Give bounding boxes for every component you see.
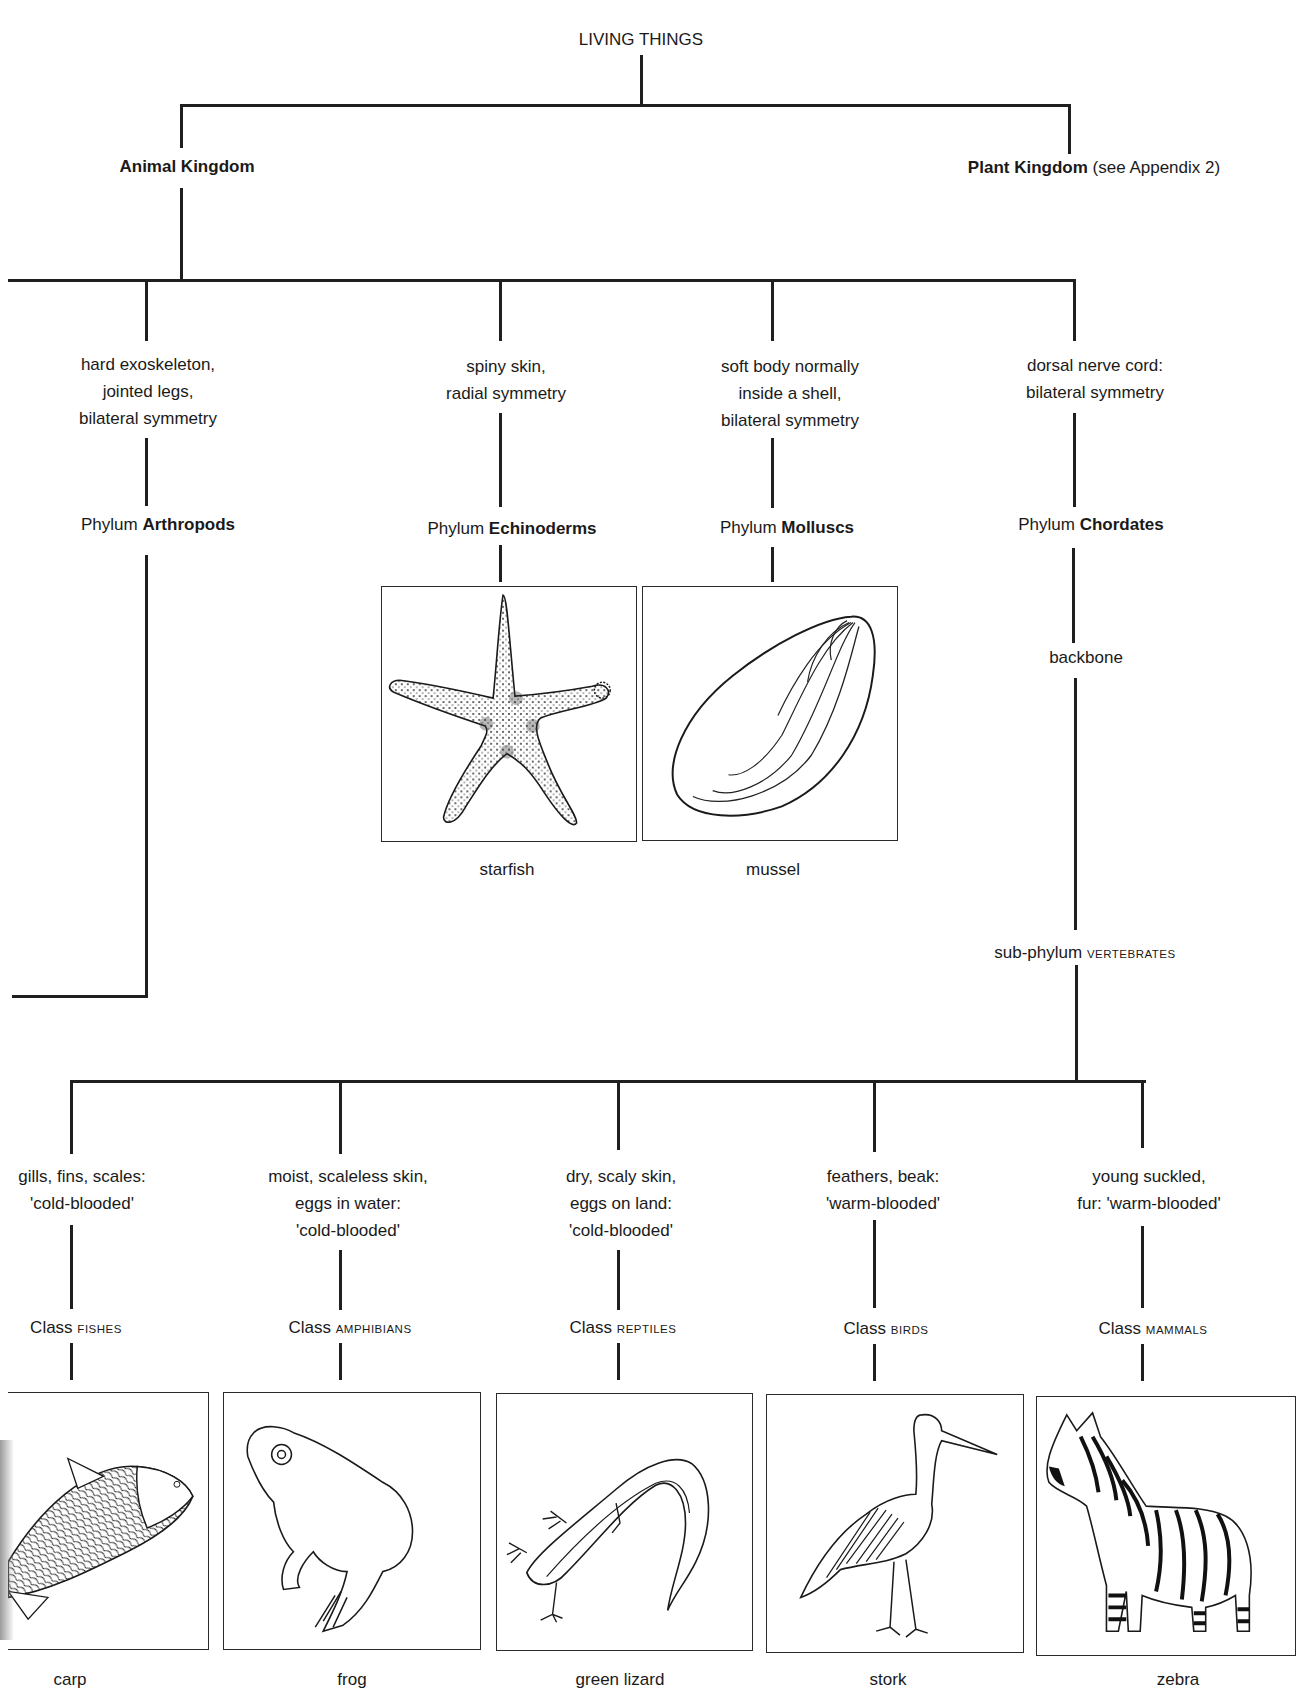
class-reptiles-features: dry, scaly skin, eggs on land: 'cold-blo… bbox=[566, 1163, 676, 1244]
class-reptiles: Class reptiles bbox=[570, 1314, 677, 1343]
starfish-illustration bbox=[382, 587, 636, 841]
phylum-echinoderms: Phylum Echinoderms bbox=[427, 515, 596, 542]
example-stork: stork bbox=[870, 1670, 907, 1690]
kingdom-plant-note: (see Appendix 2) bbox=[1093, 158, 1221, 177]
phylum-chordates: Phylum Chordates bbox=[1018, 511, 1164, 538]
class-amphibians: Class amphibians bbox=[288, 1314, 411, 1343]
starfish-image-box bbox=[381, 586, 637, 842]
phylum-chordates-features: dorsal nerve cord: bilateral symmetry bbox=[1026, 352, 1164, 406]
phylum-echinoderms-features: spiny skin, radial symmetry bbox=[446, 353, 566, 407]
example-starfish: starfish bbox=[480, 860, 535, 880]
class-birds-features: feathers, beak: 'warm-blooded' bbox=[826, 1163, 940, 1217]
chordate-feature-backbone: backbone bbox=[1049, 644, 1123, 671]
example-carp: carp bbox=[53, 1670, 86, 1690]
example-green-lizard: green lizard bbox=[576, 1670, 665, 1690]
stork-image-box bbox=[766, 1394, 1024, 1653]
carp-image-box bbox=[8, 1392, 209, 1650]
kingdom-plant-name: Plant Kingdom bbox=[968, 158, 1088, 177]
lizard-image-box bbox=[496, 1393, 753, 1651]
frog-illustration bbox=[224, 1393, 480, 1649]
kingdom-animal-name: Animal Kingdom bbox=[119, 157, 254, 176]
class-birds: Class birds bbox=[844, 1315, 929, 1344]
lizard-illustration bbox=[497, 1394, 752, 1650]
example-mussel: mussel bbox=[746, 860, 800, 880]
phylum-molluscs-features: soft body normally inside a shell, bilat… bbox=[721, 353, 859, 434]
mussel-illustration bbox=[643, 587, 897, 840]
zebra-illustration bbox=[1037, 1397, 1295, 1655]
class-fishes-features: gills, fins, scales: 'cold-blooded' bbox=[18, 1163, 146, 1217]
frog-image-box bbox=[223, 1392, 481, 1650]
carp-illustration bbox=[8, 1393, 208, 1649]
subphylum-vertebrates: sub-phylum vertebrates bbox=[994, 939, 1175, 968]
class-fishes: Class fishes bbox=[30, 1314, 122, 1343]
phylum-arthropods-features: hard exoskeleton, jointed legs, bilatera… bbox=[79, 351, 217, 432]
class-mammals-features: young suckled, fur: 'warm-blooded' bbox=[1077, 1163, 1221, 1217]
example-zebra: zebra bbox=[1157, 1670, 1200, 1690]
kingdom-animal: Animal Kingdom bbox=[119, 153, 254, 180]
stork-illustration bbox=[767, 1395, 1023, 1652]
class-amphibians-features: moist, scaleless skin, eggs in water: 'c… bbox=[268, 1163, 428, 1244]
phylum-molluscs: Phylum Molluscs bbox=[720, 514, 854, 541]
example-frog: frog bbox=[337, 1670, 366, 1690]
zebra-image-box bbox=[1036, 1396, 1296, 1656]
mussel-image-box bbox=[642, 586, 898, 841]
kingdom-plant: Plant Kingdom (see Appendix 2) bbox=[968, 154, 1220, 181]
class-mammals: Class mammals bbox=[1099, 1315, 1208, 1344]
phylum-arthropods: Phylum Arthropods bbox=[81, 511, 235, 538]
scan-edge-shadow bbox=[0, 1440, 14, 1640]
root-label: LIVING THINGS bbox=[579, 26, 703, 53]
